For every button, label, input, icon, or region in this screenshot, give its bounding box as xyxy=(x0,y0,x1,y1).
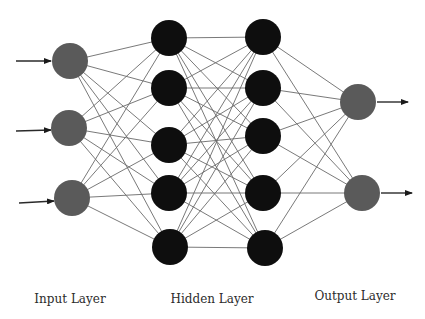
hidden2-node-3 xyxy=(245,118,281,154)
hidden2-node-4 xyxy=(245,175,281,211)
input-layer-label: Input Layer xyxy=(34,292,105,306)
hidden2-node-5 xyxy=(247,230,283,266)
input-arrow-icon xyxy=(19,201,54,203)
connection-line xyxy=(265,102,358,248)
hidden1-node-2 xyxy=(151,70,187,106)
output-node-2 xyxy=(344,175,380,211)
hidden2-node-1 xyxy=(245,19,281,55)
input-node-1 xyxy=(52,43,88,79)
connection-edges xyxy=(69,37,362,248)
hidden1-node-4 xyxy=(151,175,187,211)
neural-network-diagram xyxy=(0,0,425,319)
hidden-layer-label: Hidden Layer xyxy=(170,292,253,306)
hidden1-node-3 xyxy=(151,127,187,163)
input-node-3 xyxy=(54,180,90,216)
connection-line xyxy=(263,102,358,193)
hidden1-node-5 xyxy=(152,229,188,265)
hidden1-node-1 xyxy=(151,20,187,56)
neurons xyxy=(51,19,380,266)
output-node-1 xyxy=(340,84,376,120)
hidden2-node-2 xyxy=(245,70,281,106)
input-arrow-icon xyxy=(16,130,51,131)
input-node-2 xyxy=(51,110,87,146)
output-layer-label: Output Layer xyxy=(314,289,395,303)
